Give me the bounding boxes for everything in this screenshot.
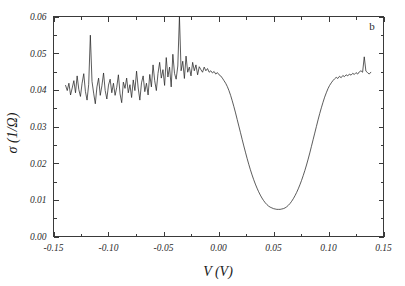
x-tick-label: -0.15: [44, 243, 64, 253]
x-tick-label: 0.00: [210, 243, 227, 253]
y-tick-label: 0.02: [30, 159, 47, 169]
y-tick-label: 0.04: [30, 85, 47, 95]
y-tick-label: 0.03: [30, 122, 47, 132]
x-axis-title: V (V): [203, 264, 233, 280]
x-tick-label: 0.05: [265, 243, 282, 253]
y-tick-label: 0.06: [30, 12, 47, 22]
x-tick-label: -0.10: [99, 243, 119, 253]
y-tick-label: 0.01: [30, 195, 47, 205]
panel-label: b: [369, 20, 375, 32]
y-tick-label: 0.05: [30, 49, 47, 59]
x-tick-label: 0.15: [375, 243, 392, 253]
conductance-plot: -0.15-0.10-0.050.000.050.100.15 0.000.01…: [0, 0, 405, 286]
x-tick-label: 0.10: [320, 243, 337, 253]
y-axis-title: σ (1/Ω): [5, 112, 21, 153]
figure-panel-b: -0.15-0.10-0.050.000.050.100.15 0.000.01…: [0, 0, 405, 286]
x-tick-label: -0.05: [154, 243, 174, 253]
y-tick-label: 0.00: [30, 232, 47, 242]
